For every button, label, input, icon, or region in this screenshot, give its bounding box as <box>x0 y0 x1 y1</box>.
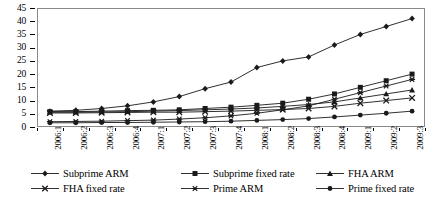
x-axis-tick-label: 2008:3 <box>313 126 322 172</box>
x-axis-tick-label: 2008:1 <box>261 126 270 172</box>
legend-item-subprime-arm[interactable]: Subprime ARM <box>30 168 129 179</box>
y-axis-tick-label: 15 <box>2 83 26 92</box>
x-axis-tick-label: 2008:2 <box>287 126 296 172</box>
x-axis-tick-mark <box>63 128 64 131</box>
y-axis-tick-mark <box>30 34 35 35</box>
y-axis-tick-mark <box>30 21 35 22</box>
x-axis-tick-label: 2009:3 <box>416 126 425 172</box>
x-axis-tick-label: 2007:1 <box>157 126 166 172</box>
x-axis-tick-mark <box>322 128 323 131</box>
x-axis-tick-mark <box>115 128 116 131</box>
y-axis-tick-label: 0 <box>2 123 26 132</box>
y-axis-tick-mark <box>30 101 35 102</box>
legend-item-label: Prime fixed rate <box>348 183 414 194</box>
chart-container: 454035302520151050 2006:12006:22006:3200… <box>0 0 443 203</box>
x-axis-tick-mark <box>244 128 245 131</box>
x-axis-tick-label: 2009:2 <box>390 126 399 172</box>
y-axis-tick-mark <box>30 87 35 88</box>
y-axis-tick-label: 30 <box>2 43 26 52</box>
x-axis-tick-mark <box>347 128 348 131</box>
y-axis-tick-label: 10 <box>2 96 26 105</box>
x-axis-tick-mark <box>218 128 219 131</box>
data-point-circle <box>328 186 333 191</box>
data-point-diamond <box>42 171 48 177</box>
y-axis-tick-mark <box>30 8 35 9</box>
circle-marker-icon <box>315 183 345 194</box>
y-axis-tick-mark <box>30 114 35 115</box>
y-axis-tick-mark <box>30 127 35 128</box>
x-axis-tick-label: 2009:1 <box>364 126 373 172</box>
x-axis-tick-mark <box>140 128 141 131</box>
triangle-marker-icon <box>315 168 345 179</box>
legend-item-prime-fixed-rate[interactable]: Prime fixed rate <box>315 183 414 194</box>
data-point-star <box>192 186 198 191</box>
diamond-marker-icon <box>30 168 60 179</box>
x-axis-tick-label: 2008:4 <box>338 126 347 172</box>
data-point-square <box>193 171 198 176</box>
legend-item-fha-arm[interactable]: FHA ARM <box>315 168 394 179</box>
x-axis-tick-mark <box>192 128 193 131</box>
x-axis-tick-mark <box>399 128 400 131</box>
y-axis-tick-label: 45 <box>2 4 26 13</box>
legend-item-prime-arm[interactable]: Prime ARM <box>180 183 263 194</box>
chart-legend: Subprime ARMSubprime fixed rateFHA ARM F… <box>30 168 430 200</box>
legend-item-label: FHA fixed rate <box>63 183 125 194</box>
x-axis-tick-mark <box>373 128 374 131</box>
legend-item-label: Prime ARM <box>213 183 263 194</box>
x-axis-tick-label: 2006:1 <box>54 126 63 172</box>
star-marker-icon <box>180 183 210 194</box>
y-axis-tick-mark <box>30 48 35 49</box>
cross-marker-icon <box>30 183 60 194</box>
x-axis-tick-label: 2007:3 <box>209 126 218 172</box>
x-axis-tick-label: 2007:4 <box>235 126 244 172</box>
y-axis-tick-label: 40 <box>2 17 26 26</box>
y-axis-tick-mark <box>30 61 35 62</box>
x-axis-tick-mark <box>270 128 271 131</box>
x-axis-tick-label: 2006:4 <box>132 126 141 172</box>
x-axis-tick-mark <box>296 128 297 131</box>
x-axis-tick-label: 2006:2 <box>80 126 89 172</box>
x-axis-tick-label: 2006:3 <box>106 126 115 172</box>
y-axis-tick-label: 25 <box>2 56 26 65</box>
x-axis-tick-mark <box>166 128 167 131</box>
legend-item-label: Subprime ARM <box>63 168 129 179</box>
y-axis-tick-label: 5 <box>2 109 26 118</box>
y-axis-tick-mark <box>30 74 35 75</box>
legend-item-fha-fixed-rate[interactable]: FHA fixed rate <box>30 183 125 194</box>
square-marker-icon <box>180 168 210 179</box>
x-axis-tick-mark <box>425 128 426 131</box>
x-axis-tick-mark <box>37 128 38 131</box>
x-axis-tick-label: 2007:2 <box>183 126 192 172</box>
y-axis-tick-label: 35 <box>2 30 26 39</box>
legend-item-label: FHA ARM <box>348 168 394 179</box>
plot-area <box>37 8 425 127</box>
y-axis-tick-label: 20 <box>2 70 26 79</box>
y-axis: 454035302520151050 <box>0 0 37 135</box>
legend-item-label: Subprime fixed rate <box>213 168 295 179</box>
x-axis-tick-mark <box>89 128 90 131</box>
legend-item-subprime-fixed-rate[interactable]: Subprime fixed rate <box>180 168 295 179</box>
